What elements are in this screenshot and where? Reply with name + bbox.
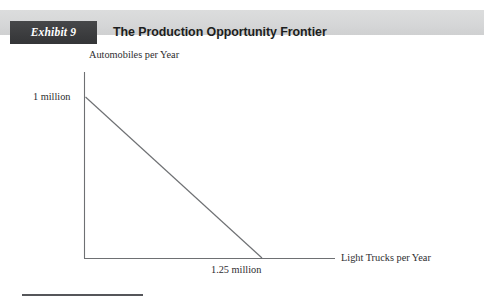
- exhibit-page: Exhibit 9 The Production Opportunity Fro…: [0, 0, 484, 306]
- x-axis-title: Light Trucks per Year: [341, 253, 431, 263]
- production-opportunity-frontier-line: [86, 97, 263, 258]
- y-axis-title: Automobiles per Year: [89, 50, 179, 60]
- chart-figure: Automobiles per Year 1 million 1.25 mill…: [0, 35, 484, 285]
- chart-canvas: [0, 35, 484, 285]
- y-axis-tick-label: 1 million: [33, 92, 70, 102]
- exhibit-header-band: Exhibit 9 The Production Opportunity Fro…: [0, 10, 484, 35]
- x-axis-tick-label: 1.25 million: [211, 265, 261, 275]
- footer-divider-rule: [22, 294, 143, 296]
